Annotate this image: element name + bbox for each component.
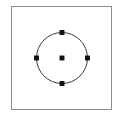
shape-layer: Top handleRight handleBottom handleLeft … [12,7,111,109]
canvas-frame[interactable]: Drawing canvas Top handleRight handleBot… [11,6,112,110]
handle-center[interactable]: Center anchor [60,56,65,61]
selection-handles: Top handleRight handleBottom handleLeft … [34,30,90,86]
handle-west[interactable]: Left handle [34,56,39,61]
handle-north[interactable]: Top handle [60,30,65,35]
handle-east[interactable]: Right handle [85,56,90,61]
app-root: Drawing canvas Top handleRight handleBot… [0,0,122,117]
handle-south[interactable]: Bottom handle [60,81,65,86]
